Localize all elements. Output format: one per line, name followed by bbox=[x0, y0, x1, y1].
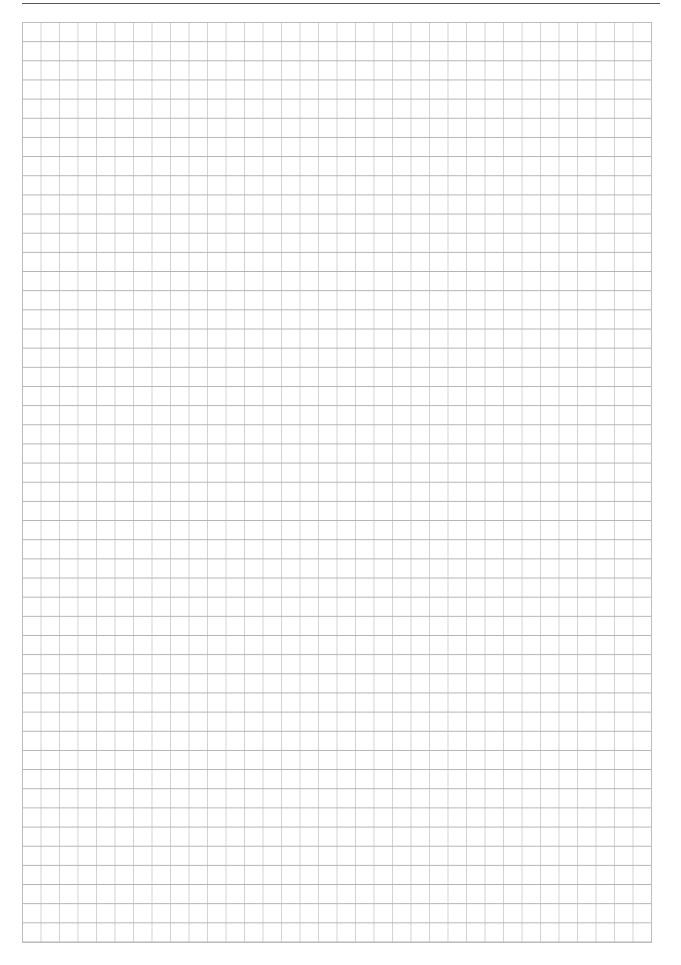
header-rule bbox=[22, 3, 660, 4]
graph-paper-grid bbox=[22, 22, 652, 943]
